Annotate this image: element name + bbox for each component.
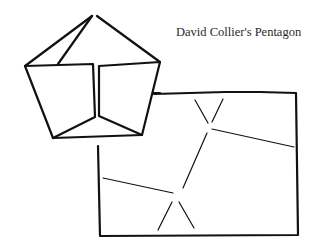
pentagon-diagram — [0, 0, 316, 246]
pentagon-top-edges — [25, 16, 160, 66]
upper-x-top — [195, 99, 223, 123]
pentagon-left-panel — [25, 64, 95, 138]
lower-fold-line — [103, 178, 173, 193]
upper-fold-line — [212, 129, 294, 147]
pentagon-apex-fold — [58, 16, 92, 64]
center-diagonal — [183, 133, 207, 188]
pentagon-bottom-edge — [53, 135, 142, 138]
pentagon-shape — [25, 16, 160, 138]
lower-x-bottom — [158, 202, 194, 230]
rectangle-outline — [98, 92, 298, 236]
pentagon-right-panel — [99, 62, 160, 135]
rectangle-sheet — [98, 92, 298, 236]
